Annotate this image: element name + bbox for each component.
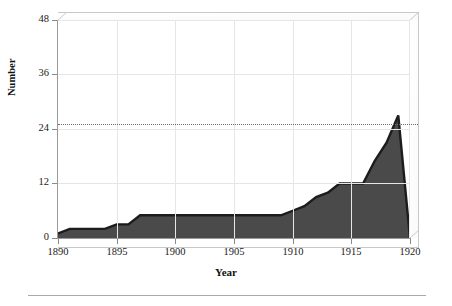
x-tick-label-1895: 1895 (95, 246, 139, 257)
y-tick-label-48: 48 (18, 13, 49, 24)
y-tick-mark-36 (52, 74, 57, 75)
gridline-x-1900 (175, 20, 176, 238)
gridline-x-1895 (117, 20, 118, 238)
reference-line-25 (58, 124, 418, 125)
x-tick-mark-1900 (175, 239, 176, 244)
x-tick-label-1915: 1915 (329, 246, 373, 257)
box-edge-right (418, 12, 419, 247)
x-axis-title: Year (0, 266, 452, 278)
y-tick-mark-24 (52, 129, 57, 130)
gridline-x-1920 (409, 20, 410, 238)
gridline-x-1905 (234, 20, 235, 238)
x-tick-label-1905: 1905 (212, 246, 256, 257)
gridline-x-1915 (351, 20, 352, 238)
x-tick-mark-1920 (410, 239, 411, 244)
x-tick-label-1920: 1920 (388, 246, 432, 257)
y-axis-title: Number (6, 59, 17, 96)
x-tick-mark-1910 (293, 239, 294, 244)
chart-figure: 48 36 24 12 0 1890 1895 1900 1905 1910 1… (0, 0, 452, 306)
y-tick-mark-12 (52, 183, 57, 184)
plot-canvas (58, 20, 410, 238)
y-axis-line (57, 20, 58, 239)
x-tick-label-1890: 1890 (36, 246, 80, 257)
y-tick-mark-0 (52, 238, 57, 239)
box-edge-top (58, 12, 419, 13)
x-tick-label-1900: 1900 (153, 246, 197, 257)
y-tick-label-12: 12 (18, 176, 49, 187)
x-tick-mark-1905 (234, 239, 235, 244)
y-tick-label-0: 0 (18, 231, 49, 242)
x-tick-mark-1915 (351, 239, 352, 244)
x-tick-label-1910: 1910 (271, 246, 315, 257)
chart-area: 48 36 24 12 0 1890 1895 1900 1905 1910 1… (0, 0, 452, 286)
footer-divider (28, 295, 426, 296)
x-tick-mark-1890 (58, 239, 59, 244)
gridline-x-1910 (293, 20, 294, 238)
plot-back-wall-top (58, 12, 418, 20)
y-tick-mark-48 (52, 20, 57, 21)
y-tick-label-24: 24 (18, 122, 49, 133)
x-tick-mark-1895 (117, 239, 118, 244)
y-tick-label-36: 36 (18, 67, 49, 78)
